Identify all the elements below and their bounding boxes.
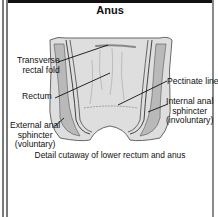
label-external-anal-sphincter: External anal sphincter (voluntary) <box>10 121 60 150</box>
label-rectum: Rectum <box>22 92 52 102</box>
label-pectinate-line: Pectinate line <box>167 77 218 87</box>
label-internal-anal-sphincter: Internal anal sphincter (involuntary) <box>166 97 213 126</box>
diagram-caption: Detail cutaway of lower rectum and anus <box>8 150 212 160</box>
label-line: (voluntary) <box>10 140 60 150</box>
label-transverse-rectal-fold: Transverse rectal fold <box>17 56 60 75</box>
label-line: (involuntary) <box>166 116 213 126</box>
label-line: rectal fold <box>17 66 60 76</box>
